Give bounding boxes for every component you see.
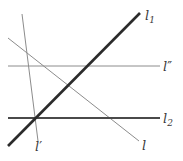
line-diagram-figure: l1 l″ l2 l′ l: [0, 0, 183, 161]
line-l-prime: [22, 14, 38, 141]
label-l-double-prime: l″: [163, 60, 172, 73]
label-l1-subscript: 1: [149, 15, 155, 25]
label-l1: l1: [145, 9, 155, 25]
label-l2-subscript: 2: [167, 118, 173, 128]
label-l2: l2: [163, 112, 173, 128]
label-l-double-prime-marks: ″: [167, 59, 172, 74]
label-l: l: [142, 139, 146, 152]
label-l-base: l: [142, 138, 146, 153]
label-l-prime-marks: ′: [39, 139, 42, 154]
geometry-lines-canvas: [0, 0, 183, 161]
label-l-prime: l′: [35, 140, 42, 153]
